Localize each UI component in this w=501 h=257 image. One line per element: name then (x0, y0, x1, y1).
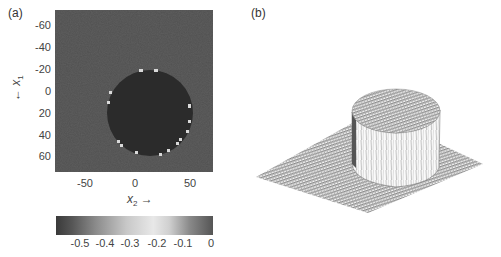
cylinder-top (352, 89, 440, 133)
surface-plot (0, 0, 501, 257)
